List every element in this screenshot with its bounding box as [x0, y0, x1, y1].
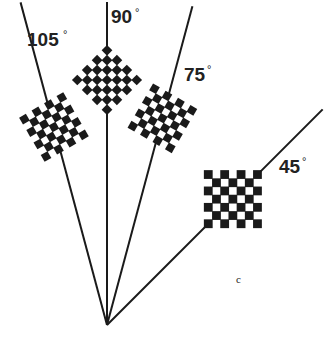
- angle-label-75: 75: [184, 64, 206, 85]
- degree-symbol-45: °: [302, 155, 306, 167]
- checker-square: [228, 211, 237, 220]
- checkerboard-75: [128, 83, 198, 153]
- label-105: 105 °: [27, 28, 67, 50]
- checker-square: [212, 195, 221, 204]
- checker-square: [228, 195, 237, 204]
- checker-square: [228, 178, 237, 187]
- label-45: 45 °: [279, 155, 306, 177]
- angle-label-105: 105: [27, 29, 59, 50]
- degree-symbol-75: °: [207, 63, 211, 75]
- checker-square: [220, 187, 229, 196]
- checker-square: [237, 187, 246, 196]
- checker-square: [253, 219, 262, 228]
- angle-label-90: 90: [111, 6, 132, 27]
- label-75: 75 °: [184, 63, 211, 85]
- checker-square: [204, 219, 213, 228]
- checker-square: [220, 219, 229, 228]
- checker-square: [253, 187, 262, 196]
- checker-square: [220, 170, 229, 179]
- checker-square: [204, 170, 213, 179]
- checker-square: [204, 187, 213, 196]
- ray-line-105: [21, 2, 107, 325]
- checkerboard-90: [72, 45, 142, 115]
- checker-square: [237, 219, 246, 228]
- ray-line-75: [107, 6, 192, 325]
- checker-square: [237, 170, 246, 179]
- degree-symbol-90: °: [135, 6, 139, 18]
- checkerboard-45: [204, 170, 262, 228]
- checker-square: [245, 178, 254, 187]
- orientation-diagram: 105 ° 90 ° 75 ° 45 ° c: [0, 0, 324, 337]
- checker-square: [245, 211, 254, 220]
- checker-square: [212, 178, 221, 187]
- ray-lines: [21, 2, 323, 325]
- panel-label: c: [236, 273, 241, 285]
- label-90: 90 °: [111, 6, 139, 27]
- checker-square: [253, 170, 262, 179]
- checker-square: [245, 195, 254, 204]
- checker-square: [220, 203, 229, 212]
- checker-square: [237, 203, 246, 212]
- checker-square: [204, 203, 213, 212]
- checkerboard-105: [19, 92, 89, 162]
- checker-square: [212, 211, 221, 220]
- angle-label-45: 45: [279, 156, 301, 177]
- checker-square: [253, 203, 262, 212]
- degree-symbol-105: °: [63, 28, 67, 40]
